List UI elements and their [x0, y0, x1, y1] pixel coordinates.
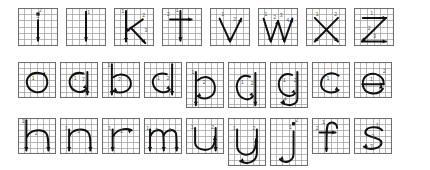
letter-grid-o: 1	[18, 62, 56, 98]
letter-cell-j: 12	[270, 118, 308, 166]
stroke-order-number: 2	[155, 127, 158, 133]
stroke-order-number: 2	[39, 8, 42, 13]
stroke-order-number: 1	[327, 75, 330, 81]
letter-cell-t: 12	[162, 8, 202, 46]
stroke-order-number: 2	[142, 12, 145, 18]
letter-grid-u: 12	[186, 118, 224, 154]
letter-grid-w: 1234	[258, 8, 298, 46]
handwriting-stroke-order-sheet: 1211231212123412123112121212121241121212…	[0, 0, 430, 170]
letter-row-3: 12121212312121212123	[18, 118, 392, 166]
letter-grid-l: 1	[66, 8, 106, 46]
letter-cell-n: 12	[60, 118, 98, 154]
stroke-order-number: 4	[284, 96, 287, 102]
stroke-order-number: 1	[322, 119, 325, 125]
stroke-order-number: 2	[294, 77, 297, 83]
stroke-order-number: 1	[233, 125, 236, 131]
stroke-order-number: 2	[82, 76, 85, 82]
stroke-order-number: 1	[191, 69, 194, 75]
letter-cell-m: 123	[144, 118, 182, 154]
stroke-order-number: 1	[283, 77, 286, 83]
stroke-order-number: 1	[74, 75, 77, 81]
letter-grid-n: 12	[60, 118, 98, 154]
letter-grid-i: 12	[18, 8, 58, 46]
stroke-order-number: 2	[233, 16, 236, 22]
stroke-order-number: 1	[265, 11, 268, 17]
letter-grid-y: 12	[228, 118, 266, 166]
letter-cell-f: 12	[312, 118, 350, 154]
stroke-order-number: 2	[35, 130, 38, 136]
stroke-order-number: 1	[108, 125, 111, 131]
stroke-order-number: 1	[316, 11, 319, 17]
letter-cell-z: 123	[354, 8, 394, 46]
letter-cell-y: 12	[228, 118, 266, 166]
letter-grid-p: 12	[186, 62, 224, 108]
letter-cell-d: 12	[144, 62, 182, 98]
letter-grid-b: 12	[102, 62, 140, 98]
stroke-order-number: 2	[120, 128, 123, 134]
stroke-order-number: 1	[65, 125, 68, 131]
letter-grid-a: 12	[60, 62, 98, 98]
letter-grid-x: 12	[306, 8, 346, 46]
letter-grid-d: 12	[144, 62, 182, 98]
letter-grid-v: 12	[210, 8, 250, 46]
letter-cell-s: 123	[354, 118, 392, 154]
stroke-order-number: 2	[368, 25, 371, 31]
letter-grid-e: 12	[354, 62, 392, 98]
stroke-order-number: 2	[118, 76, 121, 82]
stroke-order-number: 2	[372, 133, 375, 139]
letter-cell-q: 12	[228, 62, 266, 108]
letter-grid-q: 12	[228, 62, 266, 108]
stroke-order-number: 2	[203, 79, 206, 85]
letter-cell-h: 12	[18, 118, 56, 154]
letter-grid-r: 12	[102, 118, 140, 154]
stroke-order-number: 2	[167, 11, 170, 17]
letter-cell-i: 12	[18, 8, 58, 46]
letter-grid-j: 12	[270, 118, 308, 166]
letter-grid-k: 123	[114, 8, 154, 46]
stroke-order-number: 1	[121, 8, 124, 14]
stroke-order-number: 1	[32, 75, 35, 81]
letter-cell-b: 12	[102, 62, 140, 98]
stroke-order-number: 1	[146, 125, 149, 131]
letter-grid-c: 1	[312, 62, 350, 98]
stroke-order-number: 1	[37, 13, 40, 19]
stroke-order-number: 2	[295, 118, 298, 123]
stroke-order-number: 1	[157, 75, 160, 81]
stroke-order-number: 2	[167, 75, 170, 81]
letter-grid-h: 12	[18, 118, 56, 154]
letter-grid-m: 123	[144, 118, 182, 154]
stroke-order-number: 3	[168, 127, 171, 133]
letter-row-2: 11212121212124112	[18, 62, 392, 108]
stroke-order-number: 1	[176, 8, 179, 13]
letter-cell-o: 1	[18, 62, 56, 98]
stroke-order-number: 2	[252, 125, 255, 131]
letter-grid-z: 123	[354, 8, 394, 46]
stroke-order-number: 2	[211, 124, 214, 130]
letter-cell-w: 1234	[258, 8, 298, 46]
letter-cell-e: 12	[354, 62, 392, 98]
stroke-order-number: 3	[280, 12, 283, 18]
letter-grid-g: 124	[270, 62, 308, 108]
letter-grid-f: 12	[312, 118, 350, 154]
letter-cell-p: 12	[186, 62, 224, 108]
stroke-order-number: 1	[370, 10, 373, 16]
letter-cell-k: 123	[114, 8, 154, 46]
letter-cell-r: 12	[102, 118, 140, 154]
stroke-order-number: 1	[289, 124, 292, 130]
stroke-order-number: 3	[145, 27, 148, 33]
letter-cell-a: 12	[60, 62, 98, 98]
stroke-order-number: 3	[373, 33, 376, 39]
stroke-order-number: 2	[273, 14, 276, 20]
letter-grid-t: 12	[162, 8, 202, 46]
stroke-order-number: 1	[191, 124, 194, 130]
stroke-order-number: 1	[376, 122, 379, 128]
stroke-order-number: 1	[241, 79, 244, 85]
stroke-order-number: 1	[107, 62, 110, 68]
letter-cell-c: 1	[312, 62, 350, 98]
stroke-order-number: 4	[286, 17, 289, 23]
stroke-order-number: 2	[383, 68, 386, 74]
letter-cell-x: 12	[306, 8, 346, 46]
stroke-order-number: 1	[87, 9, 90, 15]
stroke-order-number: 2	[316, 125, 319, 131]
letter-grid-s: 123	[354, 118, 392, 154]
